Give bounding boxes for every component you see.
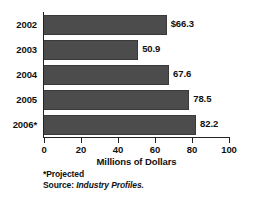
x-axis-tick-label: 40 xyxy=(113,144,123,155)
source-footnote: Source: Industry Profiles. xyxy=(43,180,248,191)
category-label: 2004 xyxy=(0,62,42,87)
x-axis-tick-label: 0 xyxy=(41,144,46,155)
x-axis-tick xyxy=(192,138,193,143)
x-axis-ticks xyxy=(44,138,229,143)
category-axis: 2002 2003 2004 2005 2006* xyxy=(0,12,42,137)
category-label: 2005 xyxy=(0,87,42,112)
bar-value-label: 67.6 xyxy=(169,65,191,83)
bar xyxy=(44,90,189,110)
x-axis-tick xyxy=(81,138,82,143)
bar-chart-figure: 2002 2003 2004 2005 2006* $66.3 50.9 67.… xyxy=(0,0,255,198)
x-axis-tick-labels: 020406080100 xyxy=(44,144,229,156)
y-axis-line xyxy=(43,12,44,138)
bar-value-label: 50.9 xyxy=(138,40,160,58)
x-axis-tick-label: 80 xyxy=(187,144,197,155)
bar-row: 67.6 xyxy=(44,62,229,87)
x-axis-tick-label: 20 xyxy=(76,144,86,155)
x-axis-tick xyxy=(229,138,230,143)
bar-value-label: 78.5 xyxy=(189,90,211,108)
bar-value-label: 82.2 xyxy=(196,115,218,133)
bar-row: 82.2 xyxy=(44,112,229,137)
bar xyxy=(44,65,169,85)
source-label: Source: xyxy=(43,180,74,190)
x-axis-tick xyxy=(118,138,119,143)
x-axis-title: Millions of Dollars xyxy=(44,156,229,167)
x-axis-tick-label: 60 xyxy=(150,144,160,155)
bar-row: 50.9 xyxy=(44,37,229,62)
x-axis-tick-label: 100 xyxy=(221,144,237,155)
plot-area: $66.3 50.9 67.6 78.5 82.2 xyxy=(44,12,229,137)
bar xyxy=(44,40,138,60)
chart-footnotes: *Projected Source: Industry Profiles. xyxy=(43,169,248,191)
bar-value-label: $66.3 xyxy=(167,15,194,33)
x-axis-tick xyxy=(155,138,156,143)
source-value: Industry Profiles. xyxy=(76,180,144,190)
category-label: 2002 xyxy=(0,12,42,37)
bar-row: $66.3 xyxy=(44,12,229,37)
category-label: 2003 xyxy=(0,37,42,62)
category-label: 2006* xyxy=(0,112,42,137)
projected-footnote: *Projected xyxy=(43,169,248,180)
bar-row: 78.5 xyxy=(44,87,229,112)
bar xyxy=(44,115,196,135)
bar xyxy=(44,15,167,35)
x-axis-tick xyxy=(44,138,45,143)
